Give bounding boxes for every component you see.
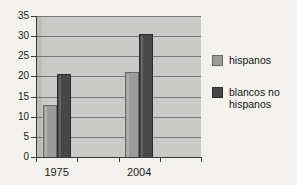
- bar-highlight: [45, 107, 47, 157]
- y-tick-mark: [31, 16, 36, 17]
- y-tick-label: 35: [3, 11, 29, 21]
- gridline: [36, 56, 201, 57]
- legend-swatch-icon-hispanos: [212, 55, 223, 66]
- y-tick-mark: [31, 76, 36, 77]
- bar-hispanos-1975: [43, 105, 57, 157]
- bar-chart: 05101520253035 19752004 hispanos blancos…: [0, 0, 297, 185]
- legend-item-blancos-no-hispanos: blancos no hispanos: [212, 86, 297, 110]
- x-tick-label: 1975: [37, 166, 77, 178]
- legend-label-hispanos: hispanos: [229, 54, 271, 66]
- y-tick-label: 30: [3, 31, 29, 41]
- x-tick-mark: [77, 157, 78, 162]
- x-tick-mark: [201, 157, 202, 162]
- y-tick-mark: [31, 97, 36, 98]
- y-tick-mark: [31, 137, 36, 138]
- legend-item-hispanos: hispanos: [212, 54, 297, 66]
- y-tick-label: 25: [3, 51, 29, 61]
- y-tick-mark: [31, 56, 36, 57]
- y-tick-label: 20: [3, 71, 29, 81]
- y-tick-label: 0: [3, 152, 29, 162]
- bar-blancos-no-hispanos-2004: [139, 34, 153, 157]
- bar-highlight: [141, 36, 143, 157]
- y-tick-mark: [31, 117, 36, 118]
- gridline: [36, 36, 201, 37]
- x-tick-mark: [119, 157, 120, 162]
- y-tick-label: 10: [3, 112, 29, 122]
- legend-swatch-icon-blancos-no-hispanos: [212, 87, 223, 98]
- plot-area: [36, 16, 201, 157]
- x-tick-label: 2004: [119, 166, 159, 178]
- y-tick-label: 15: [3, 92, 29, 102]
- bar-blancos-no-hispanos-1975: [57, 74, 71, 157]
- x-tick-mark: [36, 157, 37, 162]
- gridline: [36, 16, 201, 17]
- chart-legend: hispanos blancos no hispanos: [212, 54, 297, 130]
- bar-highlight: [59, 76, 61, 157]
- bar-hispanos-2004: [125, 72, 139, 157]
- y-tick-label: 5: [3, 132, 29, 142]
- y-axis-line: [36, 16, 37, 158]
- legend-label-blancos-no-hispanos: blancos no hispanos: [229, 86, 297, 110]
- bar-highlight: [127, 74, 129, 157]
- plot-left-shadow: [37, 16, 42, 157]
- x-tick-mark: [160, 157, 161, 162]
- y-tick-mark: [31, 36, 36, 37]
